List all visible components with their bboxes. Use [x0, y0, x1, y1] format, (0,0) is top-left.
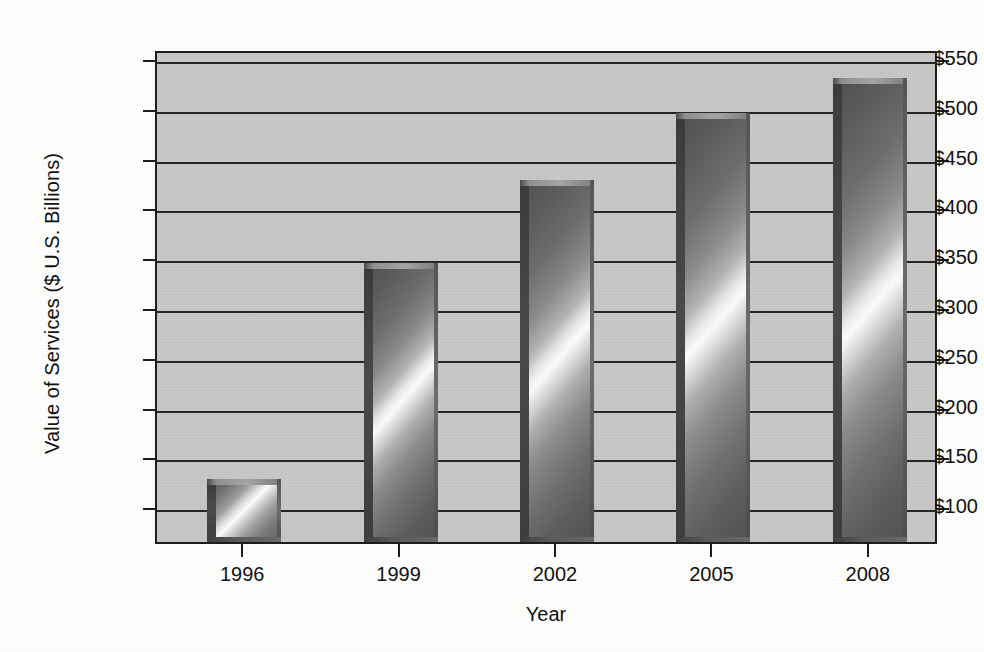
y-tick-mark [143, 60, 155, 62]
y-tick-mark [143, 110, 155, 112]
x-tick-label: 1999 [339, 563, 459, 586]
bar-bottom-edge [520, 537, 594, 542]
x-tick-mark [867, 544, 869, 557]
bar-left-edge [207, 479, 216, 542]
bar-face [207, 479, 281, 542]
y-tick-mark [143, 309, 155, 311]
bar-bottom-edge [364, 537, 438, 542]
bar-face [520, 180, 594, 542]
x-tick-mark [398, 544, 400, 557]
x-tick-mark [241, 544, 243, 557]
bar-top-edge [207, 479, 281, 485]
gridline [157, 112, 935, 114]
bar-right-edge [434, 263, 438, 542]
y-axis-title: Value of Services ($ U.S. Billions) [41, 44, 64, 564]
x-tick-mark [554, 544, 556, 557]
x-tick-mark [710, 544, 712, 557]
bar-bottom-edge [833, 537, 907, 542]
gridline [157, 62, 935, 64]
x-axis-title: Year [155, 603, 937, 626]
y-tick-mark [143, 508, 155, 510]
bar [833, 78, 907, 542]
y-tick-mark [143, 209, 155, 211]
bar-left-edge [833, 78, 842, 542]
bar-top-edge [520, 180, 594, 186]
y-tick-mark [143, 359, 155, 361]
bar [676, 113, 750, 542]
x-tick-label: 2002 [495, 563, 615, 586]
bar-face [364, 263, 438, 542]
bar-right-edge [903, 78, 907, 542]
x-tick-label: 1996 [182, 563, 302, 586]
y-tick-mark [143, 160, 155, 162]
bar [364, 263, 438, 542]
bar-right-edge [277, 479, 281, 542]
plot-area [155, 51, 937, 544]
bar-left-edge [364, 263, 373, 542]
bar-top-edge [364, 263, 438, 269]
x-tick-label: 2005 [651, 563, 771, 586]
bar-bottom-edge [676, 537, 750, 542]
x-tick-label: 2008 [808, 563, 928, 586]
bar-top-edge [676, 113, 750, 119]
gridline [157, 162, 935, 164]
bar-left-edge [676, 113, 685, 542]
bar-bottom-edge [207, 537, 281, 542]
bar [207, 479, 281, 542]
y-tick-mark [143, 259, 155, 261]
chart-figure: Value of Services ($ U.S. Billions) $100… [0, 0, 984, 652]
y-tick-mark [143, 409, 155, 411]
bar-face [676, 113, 750, 542]
bar-right-edge [590, 180, 594, 542]
y-tick-mark [143, 458, 155, 460]
bar-right-edge [746, 113, 750, 542]
bar-face [833, 78, 907, 542]
bar-top-edge [833, 78, 907, 84]
bar [520, 180, 594, 542]
bar-left-edge [520, 180, 529, 542]
